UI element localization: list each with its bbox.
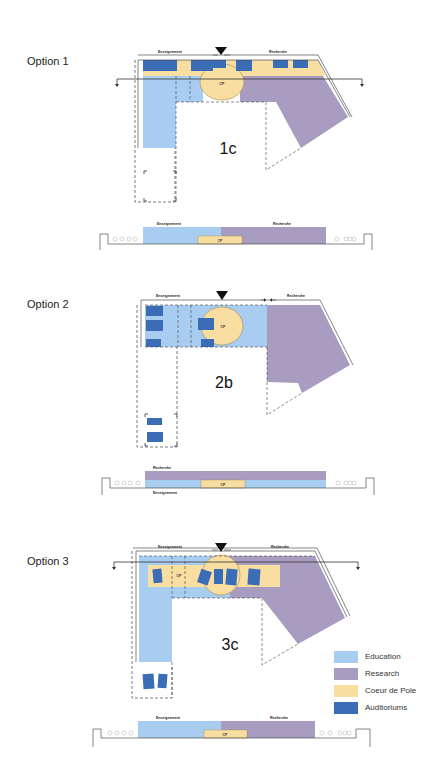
option-1-section-right-label: Recherche: [273, 222, 291, 226]
option-3-code: 3c: [222, 636, 239, 653]
option-3-plan-core-label: CP: [177, 574, 183, 578]
option-1-plan-core-label: CP: [220, 82, 226, 86]
option-3-plan-left-label: Enseignement: [158, 545, 183, 549]
education-swatch: [334, 651, 358, 663]
option-2-plan: CP Enseignement Recherche 2b: [137, 291, 353, 447]
legend: Education Research Coeur de Pole Auditor…: [334, 648, 434, 716]
option-1-section: CP Enseignement Recherche: [100, 222, 372, 250]
option-1-section-left-label: Enseignement: [157, 222, 182, 226]
option-3-plan-right-label: Recherche: [271, 545, 289, 549]
option-2-plan-core-label: CP: [221, 325, 227, 329]
auditorium-swatch: [334, 702, 358, 714]
legend-label: Auditoriums: [365, 703, 407, 712]
legend-item-coeur: Coeur de Pole: [334, 682, 434, 699]
option-2-plan-left-label: Enseignement: [156, 294, 181, 298]
legend-label: Research: [365, 669, 399, 678]
option-1-plan: CP Enseignement Recherche 1c: [115, 47, 364, 202]
option-1-plan-right-label: Recherche: [269, 50, 287, 54]
option-3-section-right-label: Recherche: [270, 716, 288, 720]
legend-item-research: Research: [334, 665, 434, 682]
option-3-section-core-label: CP: [223, 733, 229, 737]
option-1-section-core-label: CP: [218, 239, 224, 243]
coeur-swatch: [334, 685, 358, 697]
option-2-section-top-label: Recherche: [153, 466, 171, 470]
option-2-section: CP Recherche Enseignement: [102, 466, 374, 495]
option-1-plan-left-label: Enseignement: [158, 50, 183, 54]
legend-label: Coeur de Pole: [365, 686, 416, 695]
legend-item-education: Education: [334, 648, 434, 665]
option-2-code: 2b: [215, 374, 233, 391]
option-1-code: 1c: [220, 140, 237, 157]
option-3-section-left-label: Enseignement: [156, 716, 181, 720]
option-3-section: CP Enseignement Recherche: [93, 716, 370, 747]
option-2-plan-right-label: Recherche: [287, 294, 305, 298]
option-2-section-bottom-label: Enseignement: [153, 491, 178, 495]
research-swatch: [334, 668, 358, 680]
legend-label: Education: [365, 652, 401, 661]
option-2-section-core-label: CP: [221, 483, 227, 487]
legend-item-auditoriums: Auditoriums: [334, 699, 434, 716]
option-3-plan: CP Enseignement Recherche 3c: [112, 543, 360, 698]
